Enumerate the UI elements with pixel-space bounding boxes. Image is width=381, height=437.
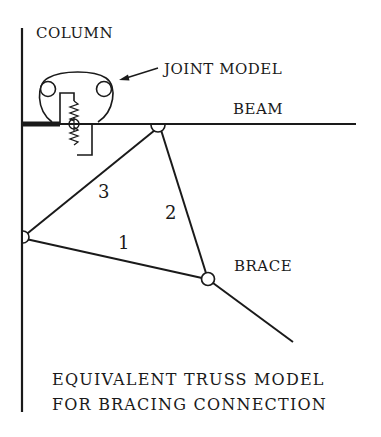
member-3-label: 3: [98, 181, 110, 202]
caption-line-2: FOR BRACING CONNECTION: [52, 395, 327, 414]
joint-model-hinge-right: [97, 82, 112, 97]
member-3: [23, 130, 155, 237]
brace-line: [213, 283, 293, 342]
arrowhead-icon: [119, 75, 130, 81]
column-label: COLUMN: [36, 24, 113, 42]
beam-rigid-segment: [22, 122, 60, 127]
brace-label: BRACE: [234, 257, 292, 275]
member-1-label: 1: [118, 232, 130, 253]
truss-diagram: COLUMN JOINT MODEL BEAM BRACE 3 2 1 EQUI…: [0, 0, 381, 437]
node-beam: [151, 125, 165, 132]
joint-model-label: JOINT MODEL: [164, 60, 282, 78]
node-column: [23, 231, 29, 243]
caption-line-1: EQUIVALENT TRUSS MODEL: [52, 370, 325, 389]
node-brace: [202, 273, 215, 286]
joint-model-hinge-left: [41, 82, 56, 97]
member-2-label: 2: [165, 202, 177, 223]
beam-label: BEAM: [233, 100, 283, 118]
member-1: [26, 239, 202, 278]
joint-model-panel-bottom: [77, 124, 92, 155]
